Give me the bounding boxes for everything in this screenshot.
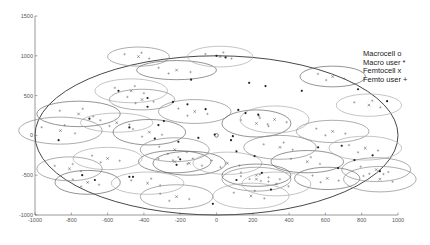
femto-user-marker — [263, 197, 265, 199]
femto-user-marker — [248, 178, 250, 180]
macro-user-marker — [157, 124, 159, 126]
femto-user-marker — [353, 101, 355, 103]
femtocell-marker — [226, 162, 229, 165]
femto-user-marker — [240, 175, 242, 177]
macro-user-marker — [128, 126, 130, 128]
femto-user-marker — [82, 108, 84, 110]
femtocell-marker — [188, 162, 191, 165]
macro-user-marker — [163, 120, 165, 122]
macro-user-marker — [146, 106, 148, 108]
macro-user-marker — [264, 85, 266, 87]
macro-user-marker — [261, 172, 263, 174]
femto-user-marker — [311, 174, 313, 176]
femto-user-marker — [319, 163, 321, 165]
macro-user-marker — [205, 108, 207, 110]
macro-user-marker — [197, 137, 199, 139]
femto-user-marker — [100, 161, 102, 163]
macro-user-marker — [235, 150, 237, 152]
femto-user-marker — [204, 53, 206, 55]
femto-user-marker — [262, 143, 264, 145]
femto-user-marker — [128, 123, 130, 125]
femto-user-marker — [324, 134, 326, 136]
femtocell-marker — [279, 146, 282, 149]
femto-user-marker — [344, 132, 346, 134]
macro-user-marker — [237, 109, 239, 111]
femto-user-marker — [201, 164, 203, 166]
femto-user-marker — [222, 51, 224, 53]
femto-user-marker — [267, 176, 269, 178]
macro-user-marker — [235, 179, 237, 181]
y-tick-label: -1000 — [19, 212, 33, 218]
x-tick-label: 400 — [285, 217, 294, 223]
y-tick-label: 500 — [24, 93, 33, 99]
x-tick-label: 800 — [357, 217, 366, 223]
femto-user-marker — [114, 87, 116, 89]
femtocell-marker — [255, 178, 258, 181]
macro-user-marker — [128, 176, 130, 178]
femto-user-marker — [130, 179, 132, 181]
macro-user-marker — [190, 79, 192, 81]
femto-user-marker — [177, 156, 179, 158]
femto-user-marker — [123, 53, 125, 55]
macro-user-marker — [132, 176, 134, 178]
macro-user-marker — [146, 97, 148, 99]
femto-user-marker — [230, 57, 232, 59]
femto-user-marker — [368, 173, 370, 175]
femtocell-marker — [146, 182, 149, 185]
femto-user-marker — [167, 72, 169, 74]
femtocell-marker — [175, 69, 178, 72]
femto-user-marker — [168, 200, 170, 202]
femto-user-marker — [325, 79, 327, 81]
femtocell-marker — [137, 55, 140, 58]
y-tick-label: 0 — [30, 132, 33, 138]
femto-user-marker — [91, 154, 93, 156]
femto-user-marker — [72, 178, 74, 180]
macro-user-marker — [341, 145, 343, 147]
legend: Macrocell o Macro user * Femtocell x Fem… — [363, 49, 408, 84]
macro-user-marker — [215, 55, 217, 57]
femto-user-marker — [161, 134, 163, 136]
femtocell-marker — [331, 75, 334, 78]
femto-user-marker — [377, 149, 379, 151]
femto-user-marker — [267, 180, 269, 182]
macro-user-marker — [232, 135, 234, 137]
femto-user-marker — [158, 146, 160, 148]
macro-user-marker — [254, 155, 256, 157]
femtocell-marker — [326, 177, 329, 180]
femto-user-marker — [40, 126, 42, 128]
femto-user-marker — [260, 180, 262, 182]
femto-user-marker — [233, 192, 235, 194]
femto-user-marker — [357, 151, 359, 153]
femto-user-marker — [279, 178, 281, 180]
femto-user-marker — [72, 163, 74, 165]
femto-user-marker — [148, 57, 150, 59]
femto-user-marker — [348, 144, 350, 146]
femtocell-marker — [331, 130, 334, 133]
femtocell-marker — [86, 181, 89, 184]
scatter-chart: -1000-800-600-400-20002004006008001000-1… — [0, 0, 430, 245]
femto-user-marker — [140, 52, 142, 54]
femto-user-marker — [99, 119, 101, 121]
femto-user-marker — [362, 175, 364, 177]
femto-user-marker — [282, 141, 284, 143]
macro-user-marker — [357, 88, 359, 90]
macro-user-marker — [88, 118, 90, 120]
femto-user-marker — [126, 96, 128, 98]
femto-user-marker — [337, 179, 339, 181]
macro-user-marker — [379, 170, 381, 172]
macro-user-marker — [186, 103, 188, 105]
femto-user-marker — [141, 135, 143, 137]
femto-user-marker — [150, 178, 152, 180]
femtocell-marker — [255, 122, 258, 125]
femto-user-marker — [134, 85, 136, 87]
macrocell-coverage — [35, 56, 398, 215]
x-tick-label: 600 — [321, 217, 330, 223]
femto-user-marker — [371, 99, 373, 101]
femtocell-marker — [148, 131, 151, 134]
femto-user-marker — [379, 106, 381, 108]
macro-user-marker — [172, 101, 174, 103]
femto-user-marker — [290, 158, 292, 160]
femto-user-marker — [118, 160, 120, 162]
y-tick-label: 1000 — [21, 53, 33, 59]
macro-user-marker — [301, 90, 303, 92]
